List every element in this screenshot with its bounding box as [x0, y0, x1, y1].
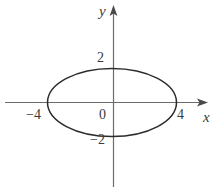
plot-canvas [0, 0, 219, 187]
y-tick-label-neg2: −2 [90, 133, 105, 147]
ellipse-graph-figure: y x 2 −2 −4 4 0 [0, 0, 219, 187]
x-axis-label: x [203, 110, 210, 125]
origin-label: 0 [99, 108, 106, 122]
y-tick-label-2: 2 [97, 51, 104, 65]
x-tick-label-4: 4 [177, 108, 184, 122]
y-axis-label: y [99, 4, 106, 19]
x-tick-label-neg4: −4 [26, 108, 41, 122]
